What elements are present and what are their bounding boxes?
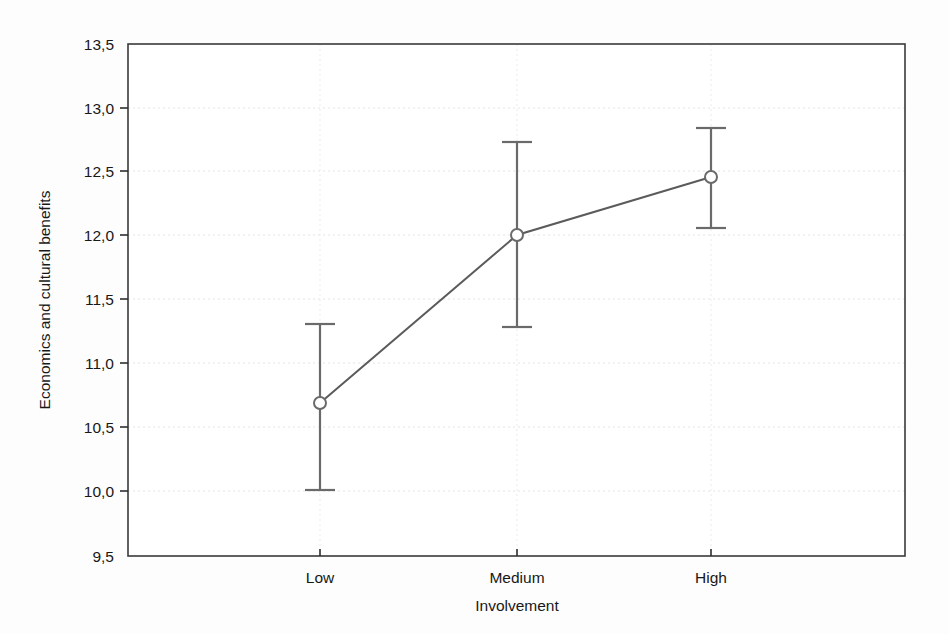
x-axis-tick-labels: Low Medium High <box>306 569 727 586</box>
data-point-medium <box>511 229 523 241</box>
ytick-label-12-0: 12,0 <box>84 227 115 244</box>
xtick-label-medium: Medium <box>489 569 544 586</box>
ytick-label-10-0: 10,0 <box>84 483 115 500</box>
ytick-label-13-0: 13,0 <box>84 100 115 117</box>
x-axis-title: Involvement <box>475 597 559 614</box>
ytick-label-10-5: 10,5 <box>84 419 114 436</box>
y-axis-ticks <box>120 108 128 491</box>
ytick-label-9-5: 9,5 <box>92 548 114 565</box>
y-axis-title: Economics and cultural benefits <box>36 190 53 409</box>
line-chart-with-error-bars: 13,5 13,0 12,5 12,0 11,5 11,0 10,5 10,0 … <box>0 0 949 634</box>
chart-figure: 13,5 13,0 12,5 12,0 11,5 11,0 10,5 10,0 … <box>0 0 949 634</box>
data-point-high <box>705 171 717 183</box>
ytick-label-11-5: 11,5 <box>85 291 114 308</box>
xtick-label-low: Low <box>306 569 335 586</box>
xtick-label-high: High <box>695 569 727 586</box>
ytick-label-13-5: 13,5 <box>84 36 114 53</box>
ytick-label-11-0: 11,0 <box>85 355 114 372</box>
data-point-low <box>314 397 326 409</box>
ytick-label-12-5: 12,5 <box>84 163 114 180</box>
y-axis-tick-labels: 13,5 13,0 12,5 12,0 11,5 11,0 10,5 10,0 … <box>84 36 115 565</box>
